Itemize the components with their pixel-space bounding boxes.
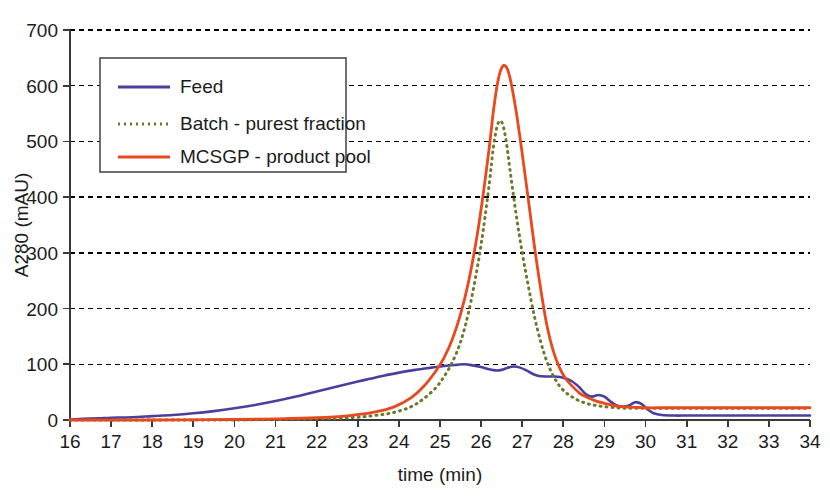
x-tick-label: 26 xyxy=(471,431,492,452)
legend-label-2: Batch - purest fraction xyxy=(180,113,366,134)
x-tick-label: 17 xyxy=(101,431,122,452)
x-tick-label: 28 xyxy=(553,431,574,452)
x-tick-label: 27 xyxy=(512,431,533,452)
x-axis-title: time (min) xyxy=(398,464,482,485)
y-tick-label: 600 xyxy=(26,76,58,97)
x-tick-label: 19 xyxy=(183,431,204,452)
legend-label-1: Feed xyxy=(180,76,223,97)
y-tick-label: 700 xyxy=(26,20,58,41)
y-tick-label: 200 xyxy=(26,299,58,320)
chart-figure: 0100200300400500600700 16171819202122232… xyxy=(0,0,830,501)
x-tick-label: 34 xyxy=(799,431,821,452)
legend-label-3: MCSGP - product pool xyxy=(180,146,371,167)
y-tick-label: 100 xyxy=(26,354,58,375)
x-tick-label: 24 xyxy=(388,431,410,452)
x-tick-label: 31 xyxy=(676,431,697,452)
x-tick-label: 23 xyxy=(347,431,368,452)
y-tick-label: 500 xyxy=(26,131,58,152)
chromatogram-chart: 0100200300400500600700 16171819202122232… xyxy=(0,0,830,501)
x-tick-label: 33 xyxy=(758,431,779,452)
x-tick-label: 32 xyxy=(717,431,738,452)
x-tick-label: 25 xyxy=(429,431,450,452)
x-tick-label: 22 xyxy=(306,431,327,452)
x-tick-label: 30 xyxy=(635,431,656,452)
x-tick-label: 21 xyxy=(265,431,286,452)
chart-legend: FeedBatch - purest fractionMCSGP - produ… xyxy=(100,58,371,172)
x-tick-label: 20 xyxy=(224,431,245,452)
y-tick-label: 0 xyxy=(47,410,58,431)
x-tick-label: 18 xyxy=(142,431,163,452)
x-tick-label: 16 xyxy=(59,431,80,452)
x-tick-label: 29 xyxy=(594,431,615,452)
y-axis-title: A280 (mAU) xyxy=(11,173,32,278)
